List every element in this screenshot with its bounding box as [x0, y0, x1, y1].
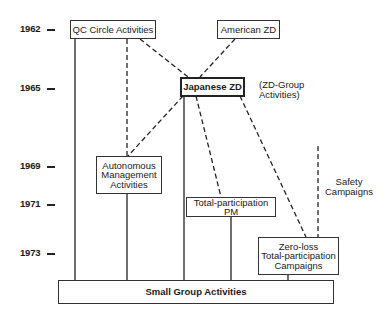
year-tick-1969: [47, 166, 55, 168]
safety-campaigns-label: Safety Campaigns: [325, 177, 373, 196]
safety-line2: Campaigns: [325, 187, 373, 197]
total-pm-label: Total-participation PM: [187, 198, 275, 217]
total-participation-pm-box: Total-participation PM: [186, 197, 276, 217]
year-label-1965: 1965: [20, 82, 40, 93]
japanese-zd-label: Japanese ZD: [183, 82, 242, 92]
small-group-activities-box: Small Group Activities: [58, 280, 334, 304]
year-label-1969: 1969: [20, 160, 40, 171]
year-tick-1971: [47, 204, 55, 206]
american-to-japanese-zd-dashed: [200, 39, 235, 77]
zero-loss-line3: Campaigns: [274, 261, 322, 271]
zd-group-note-line2: Activities): [259, 90, 304, 100]
autonomous-management-box: Autonomous Management Activities: [96, 156, 162, 194]
japanese-zd-to-pm-dashed: [196, 96, 221, 197]
year-tick-1962: [47, 29, 55, 31]
year-label-1962: 1962: [20, 23, 40, 34]
autonomous-line3: Activities: [110, 180, 147, 190]
year-label-1973: 1973: [20, 247, 40, 258]
year-tick-1965: [47, 88, 55, 90]
year-label-1971: 1971: [20, 198, 40, 209]
zd-group-note: (ZD-Group Activities): [259, 80, 304, 99]
qc-to-japanese-zd-dashed: [140, 39, 188, 77]
japanese-zd-to-autonomous-dashed: [128, 96, 183, 156]
small-group-label: Small Group Activities: [145, 287, 246, 297]
american-zd-box: American ZD: [217, 20, 280, 39]
japanese-zd-box: Japanese ZD: [180, 77, 245, 97]
year-tick-1973: [47, 253, 55, 255]
american-zd-label: American ZD: [221, 25, 276, 35]
qc-circle-label: QC Circle Activities: [73, 25, 154, 35]
qc-circle-box: QC Circle Activities: [70, 20, 156, 39]
zero-loss-box: Zero-loss Total-participation Campaigns: [258, 237, 339, 275]
